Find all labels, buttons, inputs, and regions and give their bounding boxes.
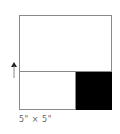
filled-region-bottom-right [76,72,112,110]
size-label: 5" × 5" [19,115,52,124]
up-arrow-icon [11,62,17,78]
